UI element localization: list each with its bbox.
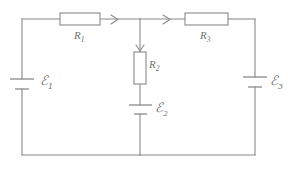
resistor-r2-label: R2 [149, 59, 159, 73]
emf2-label-symbol: ℰ [155, 100, 163, 115]
emf3-label: ℰ3 [270, 74, 283, 91]
circuit-diagram: R1 R2 R3 ℰ1 ℰ2 ℰ3 [0, 0, 294, 171]
emf3-label-symbol: ℰ [270, 73, 278, 88]
resistor-r3-label-sub: 3 [207, 35, 211, 44]
emf1-label: ℰ1 [40, 74, 53, 91]
resistor-r2-label-letter: R [149, 58, 156, 70]
emf2-label: ℰ2 [155, 101, 168, 118]
resistor-r2-label-sub: 2 [156, 64, 160, 73]
resistor-r2-body [134, 52, 146, 84]
emf1-label-sub: 1 [48, 82, 53, 91]
emf2-label-sub: 2 [163, 109, 168, 118]
resistor-r1-body [60, 13, 100, 25]
resistor-r1-label-sub: 1 [81, 35, 85, 44]
emf1-label-symbol: ℰ [40, 73, 48, 88]
resistor-r1-label-letter: R [74, 29, 81, 41]
emf3-label-sub: 3 [278, 82, 283, 91]
resistor-r1-label: R1 [74, 30, 84, 44]
resistor-r3-body [185, 13, 228, 25]
resistor-r3-label: R3 [200, 30, 210, 44]
resistor-r3-label-letter: R [200, 29, 207, 41]
